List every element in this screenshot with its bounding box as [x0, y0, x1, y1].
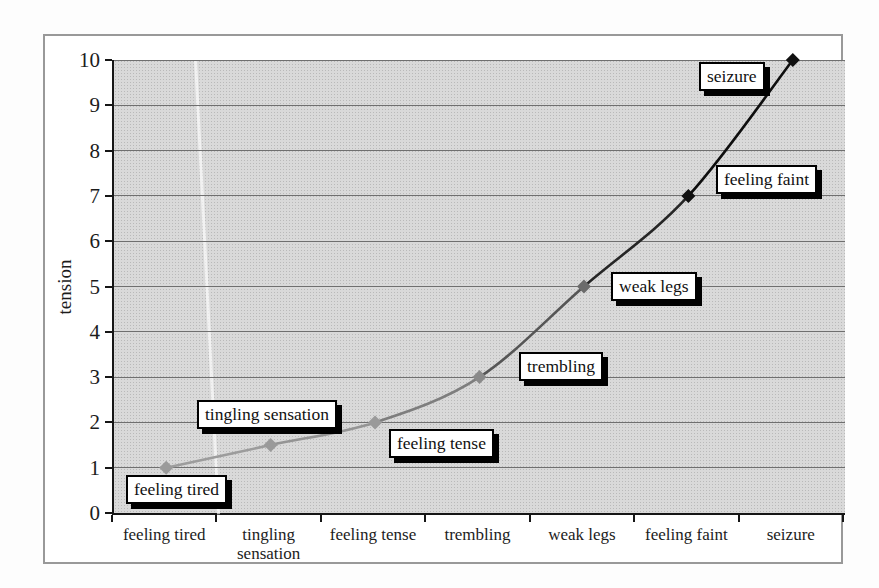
- y-axis-tick-4: [105, 331, 112, 333]
- data-label-feeling-tense: feeling tense: [389, 429, 494, 458]
- y-axis-tick-7: [105, 195, 112, 197]
- data-label-trembling: trembling: [519, 352, 603, 381]
- x-axis-tick-2: [320, 515, 322, 522]
- x-axis-tick-5: [633, 515, 635, 522]
- y-tick-label-7: 7: [50, 184, 100, 208]
- x-axis-tick-4: [529, 515, 531, 522]
- data-label-tingling-sensation: tingling sensation: [197, 400, 337, 429]
- x-category-label-3: trembling: [425, 525, 531, 544]
- x-category-label-1: tingling sensation: [216, 525, 322, 563]
- x-axis-tick-6: [738, 515, 740, 522]
- y-tick-label-9: 9: [50, 93, 100, 117]
- line-segment-2: [375, 377, 479, 422]
- data-label-seizure: seizure: [699, 62, 765, 91]
- y-axis-tick-2: [105, 421, 112, 423]
- y-tick-label-5: 5: [50, 275, 100, 299]
- plot-area: feeling tiredtingling sensationfeeling t…: [112, 60, 845, 515]
- chart-frame: tension 012345678910feeling tiredtinglin…: [43, 34, 843, 564]
- x-category-label-2: feeling tense: [320, 525, 426, 544]
- y-tick-label-2: 2: [50, 410, 100, 434]
- y-tick-label-6: 6: [50, 229, 100, 253]
- line-segment-0: [166, 445, 270, 468]
- y-axis-tick-9: [105, 104, 112, 106]
- x-category-label-5: feeling faint: [633, 525, 739, 544]
- x-category-label-0: feeling tired: [111, 525, 217, 544]
- y-axis-tick-6: [105, 240, 112, 242]
- data-point-marker-3: [473, 370, 487, 384]
- x-axis-tick-0: [111, 515, 113, 522]
- y-tick-label-0: 0: [50, 501, 100, 525]
- x-category-label-6: seizure: [738, 525, 844, 544]
- y-axis-tick-0: [105, 512, 112, 514]
- y-axis-tick-5: [105, 286, 112, 288]
- data-label-feeling-faint: feeling faint: [716, 165, 817, 194]
- y-axis-tick-10: [105, 59, 112, 61]
- y-axis-tick-1: [105, 467, 112, 469]
- y-tick-label-1: 1: [50, 456, 100, 480]
- data-point-marker-0: [159, 461, 173, 475]
- y-tick-label-4: 4: [50, 320, 100, 344]
- y-axis-tick-3: [105, 376, 112, 378]
- y-axis-tick-8: [105, 150, 112, 152]
- x-axis-tick-3: [424, 515, 426, 522]
- page: { "chart_data": { "type": "line", "title…: [0, 0, 879, 588]
- data-label-weak-legs: weak legs: [611, 272, 697, 301]
- data-point-marker-1: [264, 438, 278, 452]
- x-axis-tick-7: [842, 515, 844, 522]
- y-tick-label-3: 3: [50, 365, 100, 389]
- data-point-marker-2: [368, 415, 382, 429]
- x-axis-tick-1: [215, 515, 217, 522]
- y-tick-label-10: 10: [50, 48, 100, 72]
- x-category-label-4: weak legs: [529, 525, 635, 544]
- data-label-feeling-tired: feeling tired: [126, 475, 227, 504]
- y-tick-label-8: 8: [50, 139, 100, 163]
